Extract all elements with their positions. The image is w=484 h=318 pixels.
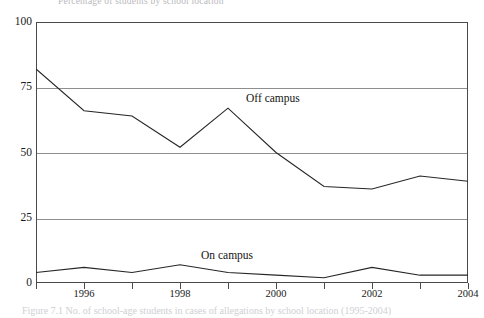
x-tickmark-2003 xyxy=(420,283,421,289)
x-tickmark-2002 xyxy=(372,283,373,289)
x-tickmark-1995 xyxy=(36,283,37,289)
x-tickmark-1998 xyxy=(180,283,181,289)
x-tickmark-2001 xyxy=(324,283,325,289)
x-tick-2000: 2000 xyxy=(266,288,287,299)
x-tick-2004: 2004 xyxy=(458,288,479,299)
line-off-campus xyxy=(36,69,468,189)
y-tick-25: 25 xyxy=(0,212,32,223)
y-tick-50: 50 xyxy=(0,147,32,158)
figure-title-clipped: Percentage of students by school locatio… xyxy=(58,0,388,8)
series-label-off-campus: Off campus xyxy=(246,92,300,104)
y-tick-100: 100 xyxy=(0,16,32,27)
figure-container: Percentage of students by school locatio… xyxy=(0,0,484,318)
x-tickmark-2000 xyxy=(276,283,277,289)
x-tick-1996: 1996 xyxy=(74,288,95,299)
y-tick-0: 0 xyxy=(0,277,32,288)
x-tickmark-2004 xyxy=(468,283,469,289)
figure-caption-clipped: Figure 7.1 No. of school-age students in… xyxy=(22,305,474,318)
x-tickmark-1997 xyxy=(132,283,133,289)
x-tickmark-1996 xyxy=(84,283,85,289)
y-tick-75: 75 xyxy=(0,81,32,92)
x-tick-2002: 2002 xyxy=(362,288,383,299)
x-tick-1998: 1998 xyxy=(170,288,191,299)
series-plot-layer xyxy=(36,22,468,283)
line-on-campus xyxy=(36,265,468,278)
series-label-on-campus: On campus xyxy=(201,249,253,261)
x-tickmark-1999 xyxy=(228,283,229,289)
